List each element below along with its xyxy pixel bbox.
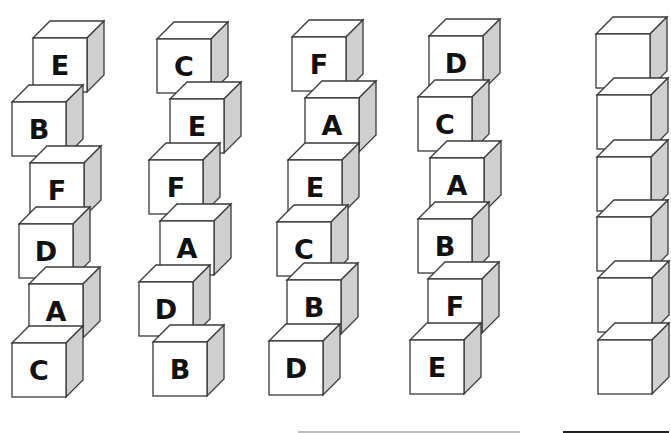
block-letter: [598, 340, 652, 394]
letter-block-e: E: [410, 323, 482, 395]
block-letter: D: [269, 341, 323, 395]
block-letter: E: [33, 38, 87, 92]
block-letter: E: [410, 340, 464, 394]
letter-block-d: D: [269, 324, 341, 396]
block-letter: B: [153, 342, 207, 396]
blank-block: [598, 323, 670, 395]
letter-block-e: E: [33, 21, 105, 93]
letter-block-c: C: [12, 326, 84, 398]
letter-block-b: B: [153, 325, 225, 397]
block-letter: C: [12, 343, 66, 397]
